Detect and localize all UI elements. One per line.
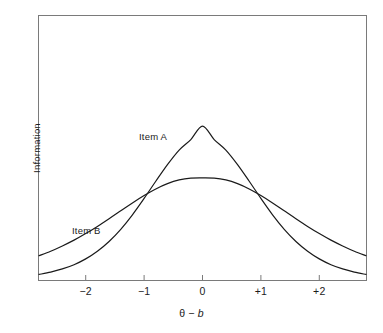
x-tick-label-3: +1 <box>243 285 279 297</box>
x-tick-label-4: +2 <box>301 285 337 297</box>
x-axis-title: θ−b <box>0 307 383 319</box>
x-axis-tick-marks <box>86 275 320 280</box>
minus-symbol: − <box>185 307 197 319</box>
y-axis-title: Information <box>28 15 44 281</box>
curve-label-item-b: Item B <box>72 225 101 236</box>
chart-canvas <box>38 15 367 281</box>
x-tick-label-0: −2 <box>68 285 104 297</box>
b-symbol: b <box>198 307 204 319</box>
curve-item-b <box>39 178 366 256</box>
curve-label-item-a: Item A <box>139 131 167 142</box>
x-tick-label-2: 0 <box>185 285 221 297</box>
information-curves <box>39 126 366 274</box>
chart-figure: Information −2−10+1+2 θ−b Item A Item B <box>0 0 383 333</box>
x-tick-label-1: −1 <box>126 285 162 297</box>
curve-item-a <box>39 126 366 274</box>
